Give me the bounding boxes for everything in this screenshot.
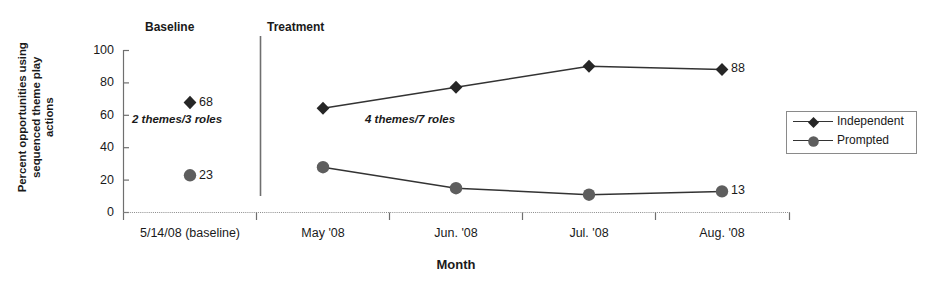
x-tick-label-may: May '08: [256, 227, 390, 240]
data-label-final-independent: 88: [731, 62, 745, 75]
legend-swatch-independent: [793, 115, 833, 129]
data-label-final-prompted: 13: [731, 184, 745, 197]
diamond-marker: [450, 81, 463, 94]
diamond-marker: [317, 102, 330, 115]
diamond-marker: [716, 63, 729, 76]
data-label-baseline-prompted: 23: [199, 169, 213, 182]
series-line-independent: [323, 66, 722, 108]
series-markers-prompted: [184, 161, 728, 201]
legend-item-prompted[interactable]: Prompted: [787, 131, 916, 150]
legend-label-prompted: Prompted: [837, 134, 889, 147]
x-tick-label-baseline: 5/14/08 (baseline): [123, 227, 257, 240]
x-tick-label-aug: Aug. '08: [655, 227, 789, 240]
legend-item-independent[interactable]: Independent: [787, 112, 916, 131]
x-axis-title: Month: [356, 258, 556, 272]
annotation-treatment-themes: 4 themes/7 roles: [365, 113, 455, 126]
data-label-baseline-independent: 68: [199, 96, 213, 109]
x-tick-label-jul: Jul. '08: [522, 227, 656, 240]
diamond-marker: [583, 60, 596, 73]
x-axis-ticks: [124, 213, 790, 221]
circle-marker: [317, 161, 329, 173]
circle-marker: [583, 189, 595, 201]
diamond-marker: [184, 96, 197, 109]
legend-label-independent: Independent: [837, 115, 904, 128]
circle-marker: [184, 169, 196, 181]
y-axis-ticks: [124, 51, 130, 213]
circle-marker: [450, 182, 462, 194]
x-tick-label-jun: Jun. '08: [389, 227, 523, 240]
diamond-marker: [806, 116, 821, 129]
line-chart: Percent opportunities using sequenced th…: [0, 0, 934, 293]
legend-swatch-prompted: [793, 134, 833, 148]
circle-marker: [806, 135, 821, 148]
annotation-baseline-themes: 2 themes/3 roles: [132, 113, 222, 126]
circle-marker: [716, 185, 728, 197]
series-line-prompted: [323, 167, 722, 195]
legend: Independent Prompted: [786, 111, 917, 154]
